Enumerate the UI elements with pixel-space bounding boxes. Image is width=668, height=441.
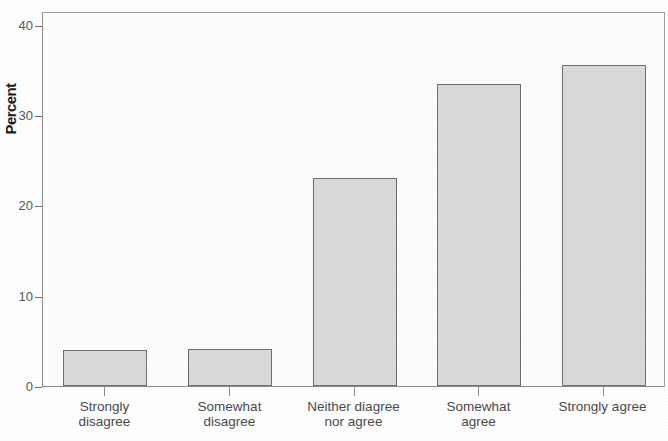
x-axis-tick-mark bbox=[478, 387, 479, 396]
x-axis-tick-mark bbox=[354, 387, 355, 396]
plot-area bbox=[42, 12, 665, 387]
bar bbox=[313, 178, 397, 386]
y-axis-tick-label: 0 bbox=[7, 380, 33, 393]
bar bbox=[562, 65, 646, 386]
x-axis-tick-label: Somewhat disagree bbox=[167, 399, 292, 429]
y-axis-tick-labels: 010203040 bbox=[0, 0, 33, 441]
y-axis-tick-label: 20 bbox=[7, 199, 33, 212]
y-axis-tick-mark bbox=[35, 297, 42, 298]
x-axis-tick-mark bbox=[104, 387, 105, 396]
x-axis-tick-label: Strongly disagree bbox=[42, 399, 167, 429]
bar-chart-figure: Percent 010203040 Strongly disagreeSomew… bbox=[0, 0, 668, 441]
y-axis-tick-mark bbox=[35, 116, 42, 117]
x-axis-tick-label: Somewhat agree bbox=[416, 399, 541, 429]
y-axis-tick-label: 40 bbox=[7, 19, 33, 32]
bars-layer bbox=[43, 13, 664, 386]
x-axis-tick-label: Neither diagree nor agree bbox=[291, 399, 416, 429]
x-axis-tick-mark bbox=[229, 387, 230, 396]
x-axis-tick-label: Strongly agree bbox=[540, 399, 665, 414]
x-axis-tick-mark bbox=[603, 387, 604, 396]
y-axis-tick-label: 10 bbox=[7, 290, 33, 303]
y-axis-tick-mark bbox=[35, 26, 42, 27]
y-axis-tick-label: 30 bbox=[7, 109, 33, 122]
bar bbox=[437, 84, 521, 386]
bar bbox=[63, 350, 147, 386]
y-axis-tick-mark bbox=[35, 387, 42, 388]
x-axis: Strongly disagreeSomewhat disagreeNeithe… bbox=[42, 387, 665, 441]
y-axis-tick-mark bbox=[35, 206, 42, 207]
bar bbox=[188, 349, 272, 386]
